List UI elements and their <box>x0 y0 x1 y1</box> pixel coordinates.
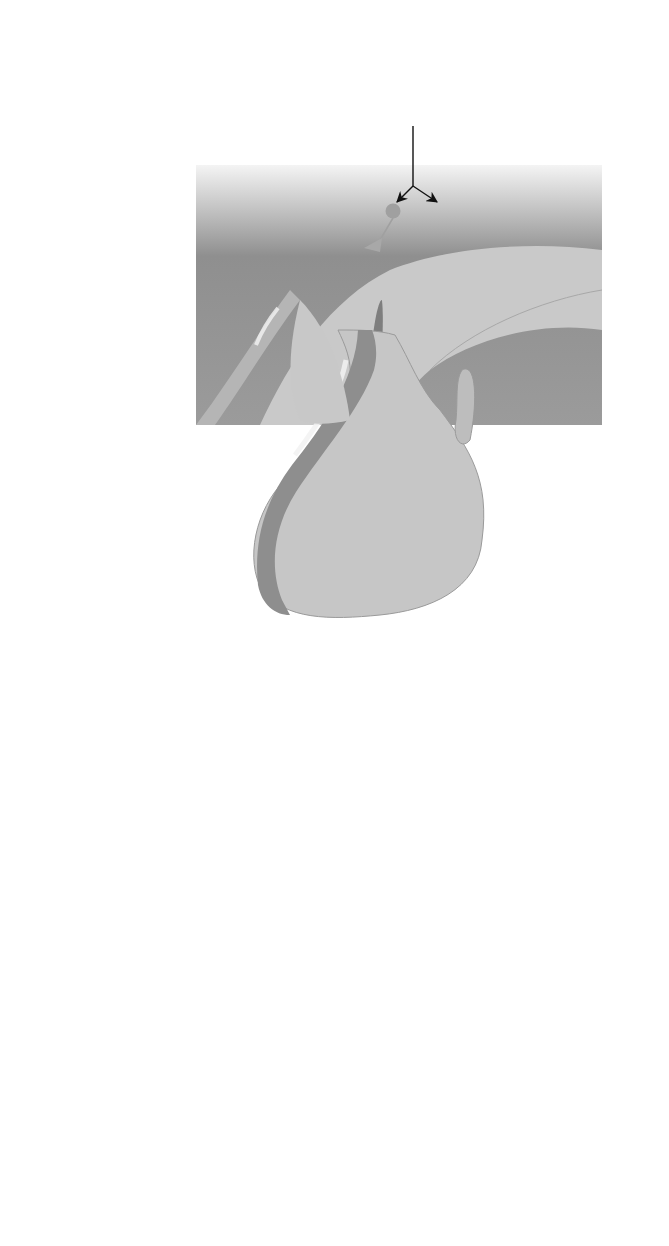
lactation-reflex-diagram <box>0 0 669 1246</box>
stimulatory-neuron-body <box>386 204 401 219</box>
